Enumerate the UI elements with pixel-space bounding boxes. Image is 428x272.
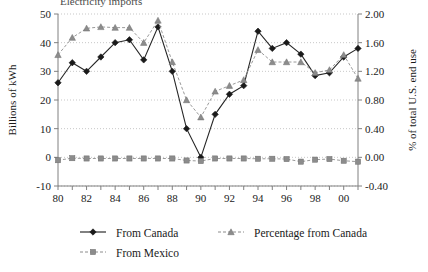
data-point-percentage-from-canada [226,82,232,88]
y-tick-right-label: 1.60 [365,37,385,49]
data-point-percentage-from-canada [355,75,361,81]
data-point-from-canada [241,82,247,88]
y-tick-left-label: 50 [40,8,52,20]
chart-figure: Electricity imports 80828486889092949698… [0,0,428,272]
data-point-from-mexico [170,156,175,161]
y-tick-left-label: 20 [40,94,52,106]
data-point-from-mexico [227,156,232,161]
legend-item-from-canada: From Canada [80,227,178,239]
data-point-from-canada [355,45,361,51]
y-tick-right-label: 2.00 [365,8,385,20]
data-point-from-mexico [313,157,318,162]
data-point-percentage-from-canada [255,47,261,53]
data-point-percentage-from-canada [212,88,218,94]
x-tick-label: 94 [253,192,265,204]
y-tick-left-label: 10 [40,123,52,135]
legend-marker [90,229,96,235]
x-tick-label: 90 [195,192,207,204]
data-point-percentage-from-canada [55,52,61,58]
x-tick-label: 84 [110,192,122,204]
x-tick-label: 82 [81,192,92,204]
legend-label: Percentage from Canada [254,227,367,240]
data-point-from-mexico [127,156,132,161]
data-series-group [55,17,361,164]
legend-label: From Mexico [116,247,179,259]
data-point-from-mexico [284,156,289,161]
data-point-from-mexico [255,156,260,161]
data-point-percentage-from-canada [198,114,204,120]
data-point-from-mexico [298,159,303,164]
y-axis-left-labels: -1001020304050 [36,8,51,192]
data-point-percentage-from-canada [169,59,175,65]
data-point-from-mexico [98,156,103,161]
data-point-from-mexico [327,156,332,161]
y-tick-left-label: 0 [46,151,52,163]
x-tick-label: 98 [310,192,322,204]
y-tick-right-label: 1.20 [365,65,385,77]
y-tick-left-label: 40 [40,37,52,49]
data-point-from-canada [183,125,189,131]
data-point-from-mexico [141,156,146,161]
x-tick-label: 86 [138,192,150,204]
x-axis-labels: 8082848688909294969800 [53,192,350,204]
x-axis-ticks [58,186,358,190]
x-tick-label: 80 [53,192,65,204]
y-axis-right-labels: -0.400.000.400.801.201.602.00 [365,8,388,192]
series-line-from-canada [58,27,358,157]
cropped-caption-strip: Electricity imports [0,0,428,7]
y-tick-right-label: 0.40 [365,123,385,135]
data-point-from-mexico [84,156,89,161]
legend-marker [90,249,95,254]
chart-canvas: 8082848688909294969800 -1001020304050 -0… [0,0,428,272]
y-tick-right-label: -0.40 [365,180,388,192]
data-point-from-mexico [341,158,346,163]
x-tick-label: 96 [281,192,293,204]
data-point-from-mexico [241,156,246,161]
y-tick-left-label: -10 [36,180,51,192]
data-point-from-mexico [198,158,203,163]
data-point-from-mexico [55,158,60,163]
data-point-from-mexico [70,156,75,161]
x-tick-label: 00 [338,192,350,204]
y-tick-left-label: 30 [40,65,52,77]
legend-item-percentage-from-canada: Percentage from Canada [218,227,367,240]
y-tick-right-label: 0.00 [365,151,385,163]
data-point-percentage-from-canada [69,34,75,40]
x-tick-label: 88 [167,192,179,204]
y-axis-left-title: Billions of kWh [6,64,18,135]
series-line-percentage-from-canada [58,20,358,117]
data-point-from-mexico [213,156,218,161]
data-point-from-mexico [270,156,275,161]
y-tick-right-label: 0.80 [365,94,385,106]
cropped-caption-text: Electricity imports [60,0,428,7]
legend-item-from-mexico: From Mexico [80,247,179,259]
data-point-percentage-from-canada [341,52,347,58]
data-point-from-mexico [113,156,118,161]
data-point-percentage-from-canada [155,17,161,23]
y-axis-right-title: % of total U.S. end use [406,49,418,151]
data-point-from-mexico [355,159,360,164]
data-point-from-mexico [155,156,160,161]
chart-legend: From CanadaPercentage from CanadaFrom Me… [80,227,367,259]
legend-label: From Canada [116,227,178,239]
x-tick-label: 92 [224,192,235,204]
data-point-from-mexico [184,158,189,163]
